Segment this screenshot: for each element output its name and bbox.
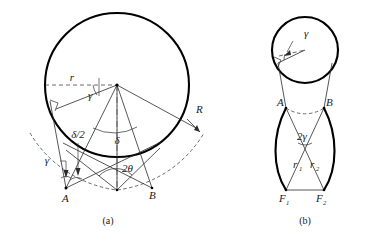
gamma-angle-arc-b (284, 54, 285, 60)
label-point-B: B (149, 189, 156, 201)
AB-dashed-arc (286, 108, 324, 114)
point-F2-dot (323, 189, 326, 192)
label-F1-main: F (278, 192, 286, 204)
label-two-theta: 2θ (122, 162, 134, 174)
chord-A-to-upper-right (66, 142, 161, 188)
radius-R-arrowhead (194, 125, 200, 132)
label-delta: δ (114, 134, 120, 146)
label-F1: F 1 (278, 192, 289, 206)
delta-angle-arc (93, 127, 137, 133)
label-F1-sub: 1 (286, 199, 289, 206)
caption-panel-b: (b) (299, 215, 311, 227)
circle-b-dashed-radius (279, 50, 305, 56)
point-F1-dot (285, 189, 288, 192)
point-A-dot-b (285, 107, 288, 110)
label-gamma-left: γ (45, 154, 50, 166)
label-F2: F 2 (315, 192, 327, 206)
label-gamma-top: γ (88, 89, 93, 101)
point-B-dot-b (323, 107, 326, 110)
label-F2-main: F (315, 192, 323, 204)
label-r1-main: r (293, 158, 298, 170)
lens-right-arc (324, 108, 335, 190)
lens-left-arc (276, 108, 287, 190)
tangent-line-to-A (50, 101, 66, 188)
label-r1-sub: 1 (299, 165, 302, 172)
geometry-figure: r γ R δ/2 δ γ 2θ A B (a) (0, 0, 377, 240)
two-gamma-angle-arc (298, 143, 312, 145)
label-point-B-b: B (326, 96, 333, 108)
circle-b-radius-to-foot (278, 50, 305, 63)
label-r2-sub: 2 (316, 165, 320, 172)
label-radius-R: R (195, 103, 203, 115)
label-gamma-b: γ (304, 27, 309, 39)
figure-container: r γ R δ/2 δ γ 2θ A B (a) (0, 0, 377, 240)
arc-vertex-dot (116, 189, 119, 192)
point-A-dot (65, 187, 68, 190)
label-delta-half: δ/2 (71, 128, 85, 140)
label-r2-main: r (310, 158, 315, 170)
panel-a: r γ R δ/2 δ γ 2θ A B (a) (30, 13, 204, 227)
center-dot (115, 83, 118, 86)
radius-R-line (117, 85, 196, 128)
label-two-gamma: 2γ (297, 130, 308, 142)
center-to-tangent-line (56, 85, 117, 109)
label-radius-r: r (70, 71, 75, 83)
caption-panel-a: (a) (102, 215, 113, 227)
delta-half-arrowhead (76, 168, 81, 176)
panel-b: γ A B 2γ r 1 r 2 F 1 F 2 (b) (272, 17, 338, 227)
label-F2-sub: 2 (323, 199, 327, 206)
label-point-A-b: A (276, 96, 284, 108)
label-point-A: A (61, 192, 69, 204)
